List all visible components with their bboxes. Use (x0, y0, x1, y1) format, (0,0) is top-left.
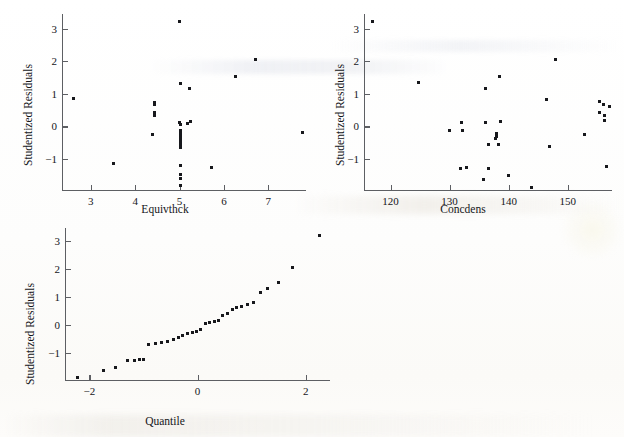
data-point (179, 184, 182, 187)
x-axis-tick-label: 3 (75, 196, 107, 207)
y-axis-tick (66, 353, 71, 354)
data-point (153, 103, 156, 106)
data-point (318, 234, 321, 237)
data-point (179, 146, 182, 149)
data-point (221, 314, 224, 317)
data-point (482, 178, 485, 181)
y-axis-tick-label: 0 (36, 121, 57, 132)
data-point (102, 369, 105, 372)
data-point (554, 58, 557, 61)
y-axis-tick (66, 325, 71, 326)
data-point (603, 119, 606, 122)
y-axis-tick-label: 3 (36, 24, 57, 35)
data-point (254, 58, 257, 61)
data-point (598, 100, 601, 103)
data-point (72, 97, 75, 100)
y-axis-tick-label: 3 (338, 24, 359, 35)
y-axis-line (65, 228, 66, 380)
data-point (210, 166, 213, 169)
data-point (133, 359, 136, 362)
y-axis-tick-label: 2 (36, 56, 57, 67)
data-point (172, 338, 175, 341)
data-point (189, 120, 192, 123)
data-point (186, 122, 189, 125)
data-point (147, 343, 150, 346)
y-axis-title: Studentized Residuals (24, 283, 36, 385)
x-axis-tick-label: 7 (252, 196, 284, 207)
data-point (499, 120, 502, 123)
x-axis-tick (198, 375, 199, 380)
plot-normal-quantile: −10123−202 Studentized Residuals Quantil… (0, 215, 340, 437)
y-axis-title: Studentized Residuals (334, 64, 346, 166)
data-point (226, 312, 229, 315)
x-axis-tick (568, 185, 569, 190)
x-axis-line (62, 190, 306, 191)
data-point (461, 129, 464, 132)
data-point (459, 167, 462, 170)
x-axis-tick-label: 6 (208, 196, 240, 207)
data-point (484, 87, 487, 90)
y-axis-tick (365, 61, 370, 62)
data-point (252, 301, 255, 304)
y-axis-tick-label: −1 (39, 348, 60, 359)
x-axis-tick (268, 185, 269, 190)
data-point (545, 98, 548, 101)
y-axis-tick (365, 29, 370, 30)
y-axis-tick-label: 3 (39, 236, 60, 247)
data-point (208, 321, 211, 324)
y-axis-tick-label: 2 (39, 264, 60, 275)
y-axis-tick (365, 159, 370, 160)
data-point (213, 320, 216, 323)
data-point (603, 114, 606, 117)
data-point (154, 342, 157, 345)
data-point (371, 20, 374, 23)
data-point (448, 129, 451, 132)
y-axis-line (62, 14, 63, 190)
x-axis-tick-label: 120 (375, 196, 407, 207)
x-axis-tick (135, 185, 136, 190)
y-axis-tick (66, 241, 71, 242)
data-point (605, 165, 608, 168)
data-point (259, 291, 262, 294)
data-point (301, 131, 304, 134)
plot-residuals-vs-equivthck: −1012334567 Studentized Residuals Equivt… (0, 0, 312, 220)
data-point (195, 330, 198, 333)
x-axis-tick (306, 375, 307, 380)
data-point (179, 177, 182, 180)
y-axis-tick (66, 297, 71, 298)
y-axis-tick (66, 269, 71, 270)
y-axis-tick (365, 94, 370, 95)
data-point (530, 186, 533, 189)
data-point (199, 328, 202, 331)
data-point (291, 266, 294, 269)
x-axis-title: Quantile (120, 415, 210, 427)
y-axis-tick (63, 126, 68, 127)
data-point (497, 143, 500, 146)
data-point (266, 287, 269, 290)
data-point (204, 322, 207, 325)
data-point (114, 366, 117, 369)
x-axis-line (364, 190, 612, 191)
y-axis-tick (63, 61, 68, 62)
x-axis-tick (89, 375, 90, 380)
data-point (179, 123, 182, 126)
data-point (583, 133, 586, 136)
data-point (487, 167, 490, 170)
data-point (179, 82, 182, 85)
data-point (126, 359, 129, 362)
plot-residuals-vs-concdens: −10123120130140150 Studentized Residuals… (312, 0, 624, 220)
data-point (231, 308, 234, 311)
data-point (153, 114, 156, 117)
data-point (177, 336, 180, 339)
y-axis-tick-label: 0 (39, 320, 60, 331)
y-axis-tick-label: −1 (36, 154, 57, 165)
y-axis-tick (63, 159, 68, 160)
data-point (188, 87, 191, 90)
x-axis-tick-label: 150 (552, 196, 584, 207)
data-point (465, 166, 468, 169)
data-point (235, 306, 238, 309)
data-point (179, 164, 182, 167)
data-point (138, 358, 141, 361)
data-point (191, 331, 194, 334)
data-point (246, 303, 249, 306)
